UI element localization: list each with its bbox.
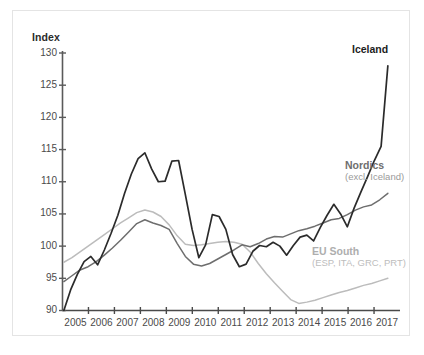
series-label-eu-south-main: EU South	[312, 246, 406, 258]
series-label-nordics: Nordics (excl. Iceland)	[345, 160, 404, 182]
y-axis-tick-label: 105	[26, 207, 57, 218]
y-axis-tick-label: 100	[26, 240, 57, 251]
y-axis-tick-label: 120	[26, 111, 57, 122]
series-lines	[64, 66, 388, 311]
y-axis-tick-label: 90	[26, 304, 57, 315]
series-label-eu-south-sub: (ESP, ITA, GRC, PRT)	[312, 258, 406, 269]
x-axis-tick-label: 2017	[370, 317, 404, 328]
y-axis-tick-label: 115	[26, 143, 57, 154]
y-axis-tick-label: 125	[26, 79, 57, 90]
y-axis-tick-label: 95	[26, 272, 57, 283]
series-line-iceland	[64, 66, 388, 311]
series-label-iceland-main: Iceland	[352, 44, 388, 56]
y-axis-tick-label: 110	[26, 175, 57, 186]
y-axis-tick-label: 130	[26, 47, 57, 58]
series-label-nordics-sub: (excl. Iceland)	[345, 172, 404, 183]
series-label-iceland: Iceland	[352, 44, 388, 56]
series-label-nordics-main: Nordics	[345, 160, 404, 172]
chart-figure: Index 9095100105110115120125130 20052006…	[0, 0, 424, 355]
series-label-eu-south: EU South (ESP, ITA, GRC, PRT)	[312, 246, 406, 268]
